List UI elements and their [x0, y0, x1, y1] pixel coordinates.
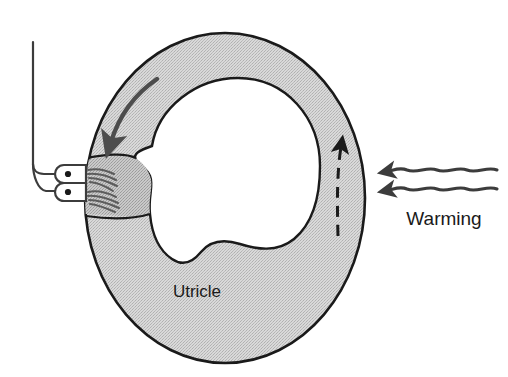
nerve-fiber-upper-branch: [33, 42, 58, 174]
nerve-terminal-lower: [55, 183, 86, 201]
vestibular-nerve-fiber: [33, 42, 58, 191]
warming-ray-lower: [389, 188, 497, 190]
ampulla-with-cupula: [85, 155, 151, 219]
terminal-nucleus-upper: [65, 171, 71, 177]
warming-ray-upper: [389, 169, 497, 171]
semicircular-canal-diagram: Utricle Warming: [0, 0, 508, 377]
nerve-fiber-lower-branch: [33, 164, 58, 191]
warming-label: Warming: [406, 208, 481, 229]
figure-canvas: Utricle Warming: [0, 0, 508, 377]
utricle-label: Utricle: [173, 282, 221, 301]
nerve-terminal-upper: [55, 165, 86, 183]
terminal-nucleus-lower: [65, 189, 71, 195]
